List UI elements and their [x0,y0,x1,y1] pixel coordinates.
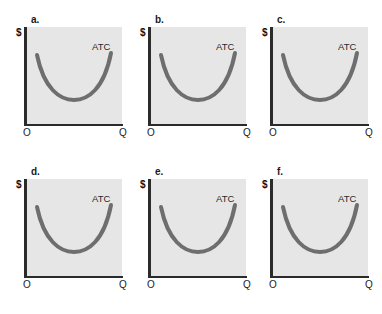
x-axis-label-f: Q [365,279,373,290]
chart-panel-a: a. $ ATC O Q [16,14,130,157]
curve-label-e: ATC [216,193,234,204]
curve-label-a: ATC [92,41,110,52]
panel-letter-e: e. [155,166,163,177]
panel-letter-f: f. [277,166,283,177]
chart-panel-f: f. $ ATC O Q [262,166,376,309]
curve-label-f: ATC [338,193,356,204]
y-axis-label-a: $ [16,27,22,38]
y-axis-label-f: $ [262,179,268,190]
panel-letter-d: d. [31,166,40,177]
curve-label-c: ATC [338,41,356,52]
figure-grid: a. $ ATC O Q b. $ ATC O Q c. $ ATC [0,0,382,314]
y-axis-label-c: $ [262,27,268,38]
curve-label-d: ATC [92,193,110,204]
y-axis-label-d: $ [16,179,22,190]
y-axis-label-e: $ [140,179,146,190]
origin-label-a: O [23,127,31,138]
origin-label-c: O [269,127,277,138]
origin-label-b: O [147,127,155,138]
x-axis-label-d: Q [119,279,127,290]
origin-label-f: O [269,279,277,290]
chart-panel-e: e. $ ATC O Q [140,166,254,309]
y-axis-label-b: $ [140,27,146,38]
curve-label-b: ATC [216,41,234,52]
origin-label-e: O [147,279,155,290]
panel-letter-a: a. [31,14,39,25]
x-axis-label-e: Q [243,279,251,290]
origin-label-d: O [23,279,31,290]
x-axis-label-b: Q [243,127,251,138]
chart-panel-b: b. $ ATC O Q [140,14,254,157]
panel-letter-b: b. [155,14,164,25]
panel-letter-c: c. [277,14,285,25]
x-axis-label-a: Q [119,127,127,138]
x-axis-label-c: Q [365,127,373,138]
chart-panel-c: c. $ ATC O Q [262,14,376,157]
chart-panel-d: d. $ ATC O Q [16,166,130,309]
